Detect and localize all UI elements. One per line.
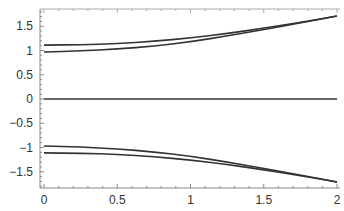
y-tick-label: 1 [26, 44, 33, 58]
series-lines [44, 16, 337, 182]
y-tick-label: 0.5 [16, 68, 33, 82]
x-tick-label: 1.5 [255, 193, 272, 207]
x-tick-label: 2 [334, 193, 341, 207]
y-tick-label: 0 [26, 92, 33, 106]
line-chart: 00.511.521.510.50−0.5−1−1.5 [0, 0, 344, 211]
y-tick-label: −1.5 [9, 165, 33, 179]
tick-labels: 00.511.521.510.50−0.5−1−1.5 [9, 19, 340, 207]
y-tick-label: 1.5 [16, 19, 33, 33]
x-tick-label: 0 [41, 193, 48, 207]
series-lower-inner [44, 146, 337, 182]
series-upper-inner [44, 16, 337, 52]
y-tick-label: −0.5 [9, 116, 33, 130]
x-tick-label: 1 [187, 193, 194, 207]
y-tick-label: −1 [19, 141, 33, 155]
x-tick-label: 0.5 [109, 193, 126, 207]
